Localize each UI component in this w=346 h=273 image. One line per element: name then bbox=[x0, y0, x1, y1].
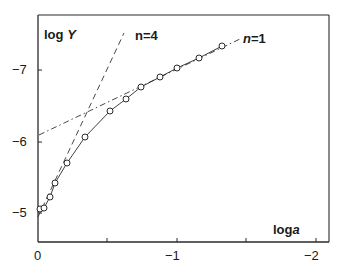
data-point bbox=[64, 160, 70, 166]
label-n4-var: n bbox=[135, 28, 143, 43]
data-point bbox=[174, 65, 180, 71]
y-tick-label-minus7: −7 bbox=[12, 62, 27, 77]
y-axis-title-log: log bbox=[44, 27, 64, 42]
label-n1-var: n bbox=[243, 31, 251, 46]
label-n4: n=4 bbox=[135, 28, 158, 43]
data-point bbox=[107, 108, 113, 114]
y-axis-title: log Y bbox=[44, 27, 76, 42]
data-point bbox=[219, 43, 225, 49]
y-tick-label-minus5: −5 bbox=[12, 205, 27, 220]
y-axis-title-var: Y bbox=[67, 27, 76, 42]
label-n4-value: =4 bbox=[143, 28, 158, 43]
x-axis-title: loga bbox=[273, 222, 300, 237]
data-point bbox=[52, 180, 58, 186]
data-curve bbox=[40, 46, 222, 209]
data-point bbox=[41, 205, 47, 211]
data-point bbox=[123, 96, 129, 102]
data-point bbox=[196, 55, 202, 61]
fit-line-n4 bbox=[38, 33, 124, 217]
label-n1: n=1 bbox=[243, 31, 266, 46]
data-markers bbox=[37, 43, 225, 212]
y-tick-label-minus6: −6 bbox=[12, 134, 27, 149]
data-point bbox=[47, 194, 53, 200]
data-point bbox=[82, 134, 88, 140]
x-tick-label-minus1: −1 bbox=[165, 248, 180, 263]
label-n1-value: =1 bbox=[251, 31, 266, 46]
x-axis-title-var: a bbox=[293, 222, 300, 237]
data-point bbox=[138, 84, 144, 90]
x-tick-label-minus2: −2 bbox=[304, 248, 319, 263]
x-axis-title-log: log bbox=[273, 222, 293, 237]
x-tick-label-0: 0 bbox=[34, 248, 41, 263]
data-point bbox=[157, 74, 163, 80]
